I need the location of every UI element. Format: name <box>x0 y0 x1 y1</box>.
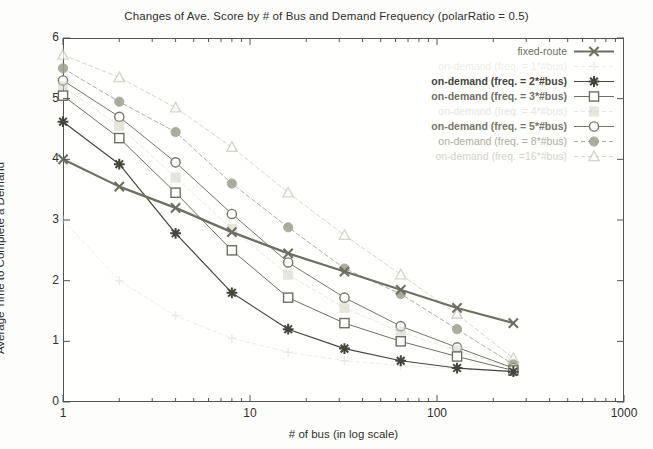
data-point-square-open <box>589 92 598 101</box>
data-point-circle-filled <box>227 179 236 188</box>
data-point-star <box>452 363 463 374</box>
legend-item: on-demand (freq. = 2*#bus) <box>431 74 616 89</box>
data-point-triangle-open <box>114 72 124 82</box>
data-point-triangle-open <box>283 187 293 197</box>
data-point-triangle-open <box>227 142 237 152</box>
legend-label: on-demand (freq. = 8*#bus) <box>438 134 567 149</box>
data-point-plus <box>284 348 293 357</box>
legend-label: on-demand (freq. =16*#bus) <box>435 149 567 164</box>
data-point-plus <box>227 334 236 343</box>
legend-label: on-demand (freq. = 5*#bus) <box>431 119 567 134</box>
x-axis-ticks: 1101001000 <box>63 406 624 424</box>
data-point-circle-filled <box>284 223 293 232</box>
y-tick-label: 4 <box>31 151 59 165</box>
data-point-triangle-open <box>589 151 599 161</box>
data-point-star <box>170 228 181 239</box>
data-point-star <box>283 324 294 335</box>
data-point-triangle-open <box>339 230 349 240</box>
data-point-circle-open <box>589 122 598 131</box>
data-point-star <box>589 76 600 87</box>
x-tick-label: 100 <box>427 406 447 420</box>
y-tick-label: 3 <box>31 212 59 226</box>
x-tick-label: 1 <box>60 406 67 420</box>
legend-item: on-demand (freq. = 3*#bus) <box>431 89 616 104</box>
legend: fixed-routeon-demand (freq. = 1*#bus)on-… <box>423 40 622 169</box>
legend-item: fixed-route <box>431 44 616 59</box>
x-axis-label: # of bus (in log scale) <box>63 428 624 440</box>
x-tick-label: 1000 <box>611 406 638 420</box>
legend-key-x <box>572 44 616 59</box>
legend-key-triangle-open <box>572 149 616 164</box>
chart-title: Changes of Ave. Score by # of Bus and De… <box>0 10 653 22</box>
data-point-circle-open <box>115 112 124 121</box>
data-point-circle-open <box>284 258 293 267</box>
data-point-square-open <box>171 188 180 197</box>
scan-artifact <box>60 0 380 8</box>
data-point-circle-open <box>171 158 180 167</box>
data-point-circle-filled <box>171 127 180 136</box>
y-tick-label: 6 <box>31 30 59 44</box>
y-axis-ticks: 0123456 <box>27 38 59 402</box>
data-point-star <box>114 159 125 170</box>
legend-label: on-demand (freq. = 4*#bus) <box>438 104 567 119</box>
data-point-circle-open <box>227 209 236 218</box>
data-point-circle-filled <box>115 97 124 106</box>
data-point-square-open <box>284 293 293 302</box>
data-point-square-filled <box>340 303 349 312</box>
data-point-circle-open <box>340 293 349 302</box>
data-point-triangle-open <box>170 102 180 112</box>
data-point-circle-filled <box>589 137 598 146</box>
legend-item: on-demand (freq. = 4*#bus) <box>431 104 616 119</box>
data-point-square-open <box>396 337 405 346</box>
data-point-triangle-open <box>58 50 68 60</box>
data-point-square-open <box>115 134 124 143</box>
data-point-square-open <box>227 246 236 255</box>
legend-item: on-demand (freq. = 1*#bus) <box>431 59 616 74</box>
data-point-plus <box>340 356 349 365</box>
data-point-star <box>339 343 350 354</box>
legend-label: on-demand (freq. = 3*#bus) <box>431 89 567 104</box>
y-tick-label: 2 <box>31 273 59 287</box>
y-tick-label: 5 <box>31 91 59 105</box>
y-axis-label-host: Average Time to Complete a Demand <box>8 38 24 402</box>
data-point-circle-filled <box>58 64 67 73</box>
legend-item: on-demand (freq. = 8*#bus) <box>431 134 616 149</box>
legend-key-plus <box>572 59 616 74</box>
y-tick-label: 1 <box>31 333 59 347</box>
legend-label: on-demand (freq. = 1*#bus) <box>438 59 567 74</box>
data-point-star <box>508 366 519 377</box>
data-point-star <box>226 287 237 298</box>
legend-key-square-open <box>572 89 616 104</box>
data-point-x <box>171 203 180 212</box>
legend-item: on-demand (freq. =16*#bus) <box>431 149 616 164</box>
data-point-square-open <box>452 352 461 361</box>
data-point-plus <box>589 62 598 71</box>
chart-screenshot: Changes of Ave. Score by # of Bus and De… <box>0 0 653 449</box>
y-axis-label: Average Time to Complete a Demand <box>0 76 10 440</box>
data-point-square-filled <box>115 121 124 130</box>
legend-key-square-filled <box>572 104 616 119</box>
data-point-plus <box>171 311 180 320</box>
legend-key-circle-open <box>572 119 616 134</box>
x-tick-label: 10 <box>243 406 256 420</box>
legend-item: on-demand (freq. = 5*#bus) <box>431 119 616 134</box>
data-point-triangle-open <box>396 269 406 279</box>
legend-label: on-demand (freq. = 2*#bus) <box>431 74 567 89</box>
data-point-square-filled <box>396 328 405 337</box>
legend-key-circle-filled <box>572 134 616 149</box>
data-point-star <box>58 116 69 127</box>
data-point-square-filled <box>589 107 598 116</box>
legend-key-star <box>572 74 616 89</box>
data-point-square-filled <box>171 173 180 182</box>
data-point-x <box>115 182 124 191</box>
data-point-circle-filled <box>452 325 461 334</box>
data-point-square-filled <box>58 82 67 91</box>
plot-area: fixed-routeon-demand (freq. = 1*#bus)on-… <box>63 38 624 402</box>
data-point-star <box>395 355 406 366</box>
legend-label: fixed-route <box>517 44 567 59</box>
data-point-square-open <box>340 319 349 328</box>
data-point-square-filled <box>284 270 293 279</box>
y-tick-label: 0 <box>31 394 59 408</box>
